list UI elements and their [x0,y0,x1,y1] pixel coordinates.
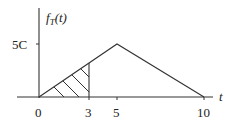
y-axis-label: fT(t) [46,10,67,27]
x-tick-label-3: 3 [85,105,92,120]
density-curve [39,44,204,97]
x-tick-label-10: 10 [197,105,210,120]
x-tick-label-5: 5 [113,105,120,120]
x-axis-label: t [219,89,223,104]
x-tick-label-0: 0 [35,105,42,120]
pdf-diagram: fT(t) 5C 0 3 5 10 t [0,0,235,128]
y-tick-label-5c: 5C [12,37,27,52]
